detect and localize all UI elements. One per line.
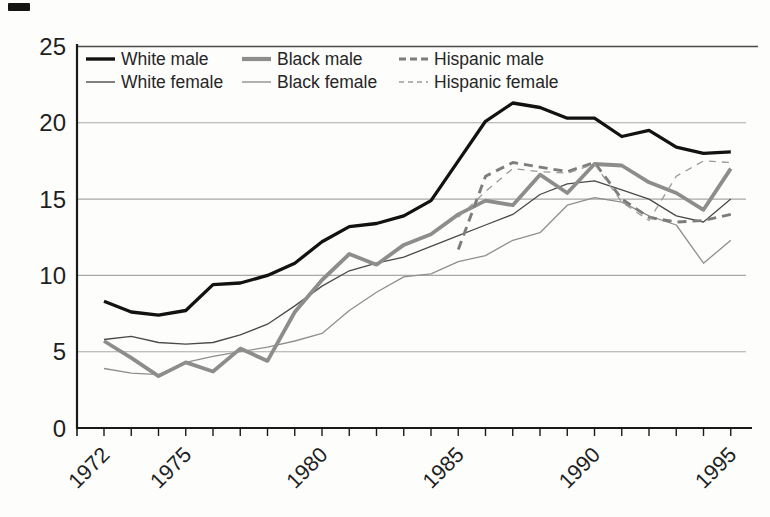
scan-artifact-mark <box>8 3 30 11</box>
legend-label-black-female: Black female <box>277 72 377 92</box>
y-tick-label-10: 10 <box>39 262 66 289</box>
x-tick-label-group-1975: 1975 <box>146 443 197 494</box>
legend: White maleBlack maleHispanic maleWhite f… <box>86 49 559 92</box>
y-tick-label-20: 20 <box>39 109 66 136</box>
x-tick-label-1985: 1985 <box>418 443 469 494</box>
gridlines <box>77 47 758 352</box>
series-line-white-female <box>104 181 731 344</box>
series-line-hispanic-male <box>458 163 731 250</box>
line-chart: 0510152025 197219751980198519901995 Whit… <box>0 0 770 517</box>
x-tick-label-group-1995: 1995 <box>691 443 742 494</box>
y-tick-label-5: 5 <box>53 338 66 365</box>
x-tick-labels: 197219751980198519901995 <box>64 443 742 494</box>
x-tick-label-1972: 1972 <box>64 443 115 494</box>
scanned-chart-page: 0510152025 197219751980198519901995 Whit… <box>0 0 770 517</box>
legend-label-hispanic-male: Hispanic male <box>434 49 544 69</box>
axes <box>76 44 752 429</box>
series-line-black-female <box>104 198 731 375</box>
legend-label-white-male: White male <box>121 49 209 69</box>
series-line-black-male <box>104 164 731 376</box>
x-tick-label-group-1985: 1985 <box>418 443 469 494</box>
x-tick-label-group-1990: 1990 <box>554 443 605 494</box>
y-tick-label-15: 15 <box>39 186 66 213</box>
legend-label-white-female: White female <box>121 72 223 92</box>
data-series <box>104 103 731 376</box>
x-tick-label-group-1980: 1980 <box>282 443 333 494</box>
x-tick-marks <box>77 428 731 436</box>
x-tick-label-group-1972: 1972 <box>64 443 115 494</box>
y-tick-label-0: 0 <box>53 415 66 442</box>
x-tick-label-1980: 1980 <box>282 443 333 494</box>
x-tick-label-1995: 1995 <box>691 443 742 494</box>
y-tick-label-25: 25 <box>39 33 66 60</box>
legend-label-hispanic-female: Hispanic female <box>434 72 559 92</box>
legend-label-black-male: Black male <box>277 49 363 69</box>
y-tick-labels: 0510152025 <box>39 33 66 442</box>
x-tick-label-1990: 1990 <box>554 443 605 494</box>
x-tick-label-1975: 1975 <box>146 443 197 494</box>
